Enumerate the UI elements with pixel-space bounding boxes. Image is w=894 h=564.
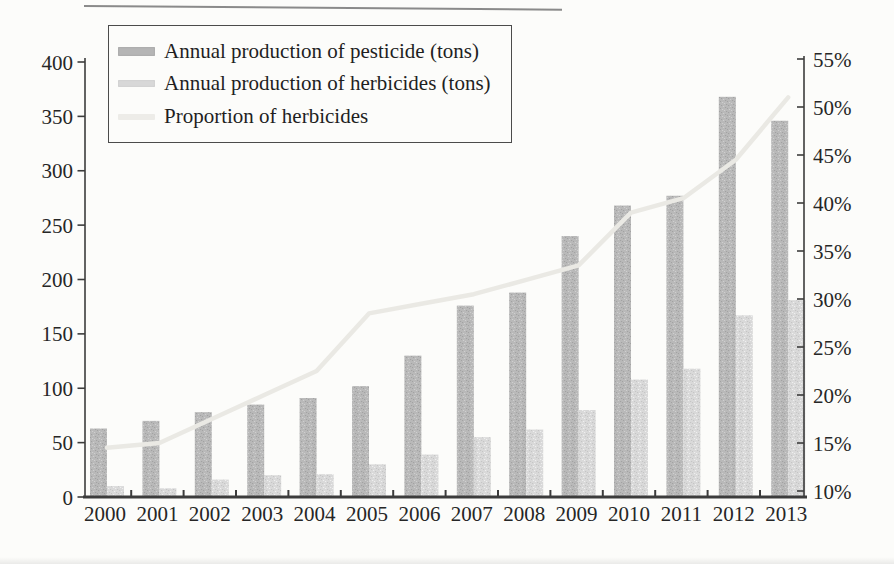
svg-text:2008: 2008 bbox=[503, 502, 545, 526]
svg-text:20%: 20% bbox=[813, 384, 852, 408]
svg-text:2010: 2010 bbox=[608, 502, 650, 526]
legend-label-proportion: Proportion of herbicides bbox=[164, 105, 368, 128]
svg-text:2001: 2001 bbox=[136, 502, 178, 526]
svg-text:2011: 2011 bbox=[661, 502, 702, 526]
svg-text:2000: 2000 bbox=[84, 502, 126, 526]
legend-item-pesticide: Annual production of pesticide (tons) bbox=[118, 40, 511, 63]
svg-text:400: 400 bbox=[42, 51, 74, 75]
svg-text:100: 100 bbox=[42, 377, 74, 401]
legend-label-herbicide: Annual production of herbicides (tons) bbox=[164, 72, 491, 95]
svg-text:15%: 15% bbox=[813, 432, 852, 456]
svg-text:0: 0 bbox=[63, 486, 74, 510]
svg-text:50: 50 bbox=[52, 431, 73, 455]
svg-text:2007: 2007 bbox=[451, 502, 493, 526]
svg-text:30%: 30% bbox=[813, 288, 852, 312]
svg-text:10%: 10% bbox=[813, 480, 852, 504]
svg-text:40%: 40% bbox=[813, 192, 852, 216]
svg-text:25%: 25% bbox=[813, 336, 852, 360]
scan-bottom-shadow bbox=[0, 557, 894, 564]
svg-text:2006: 2006 bbox=[398, 502, 440, 526]
svg-text:2012: 2012 bbox=[713, 502, 755, 526]
proportion-line-swatch-icon bbox=[118, 114, 155, 120]
svg-text:50%: 50% bbox=[813, 96, 852, 120]
svg-text:2004: 2004 bbox=[294, 502, 337, 526]
svg-text:35%: 35% bbox=[813, 240, 852, 264]
svg-text:2009: 2009 bbox=[556, 502, 598, 526]
svg-text:200: 200 bbox=[42, 268, 74, 292]
svg-text:350: 350 bbox=[42, 105, 74, 129]
legend-label-pesticide: Annual production of pesticide (tons) bbox=[164, 40, 479, 63]
legend-item-herbicide: Annual production of herbicides (tons) bbox=[118, 72, 511, 95]
svg-text:55%: 55% bbox=[813, 48, 852, 72]
pesticide-bar-swatch-icon bbox=[118, 47, 155, 56]
chart-legend: Annual production of pesticide (tons) An… bbox=[108, 25, 512, 143]
svg-text:250: 250 bbox=[42, 214, 74, 238]
svg-text:45%: 45% bbox=[813, 144, 852, 168]
scanned-chart-page: 05010015020025030035040010%15%20%25%30%3… bbox=[0, 0, 894, 564]
legend-item-proportion: Proportion of herbicides bbox=[118, 105, 511, 128]
svg-text:2002: 2002 bbox=[189, 502, 231, 526]
svg-text:300: 300 bbox=[42, 159, 74, 183]
svg-text:2003: 2003 bbox=[241, 502, 283, 526]
svg-text:2013: 2013 bbox=[765, 502, 807, 526]
svg-text:2005: 2005 bbox=[346, 502, 388, 526]
svg-text:150: 150 bbox=[42, 322, 74, 346]
herbicide-bar-swatch-icon bbox=[118, 80, 155, 87]
